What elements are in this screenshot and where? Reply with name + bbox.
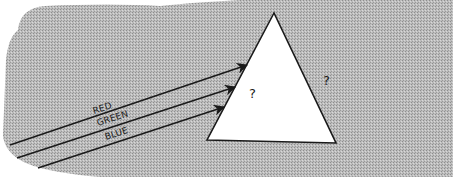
prism-diagram: RED GREEN BLUE ? ? xyxy=(0,0,453,177)
prism-outside-question-mark: ? xyxy=(323,73,330,88)
prism-inside-question-mark: ? xyxy=(249,86,256,101)
diagram-canvas: RED GREEN BLUE ? ? xyxy=(0,0,453,177)
